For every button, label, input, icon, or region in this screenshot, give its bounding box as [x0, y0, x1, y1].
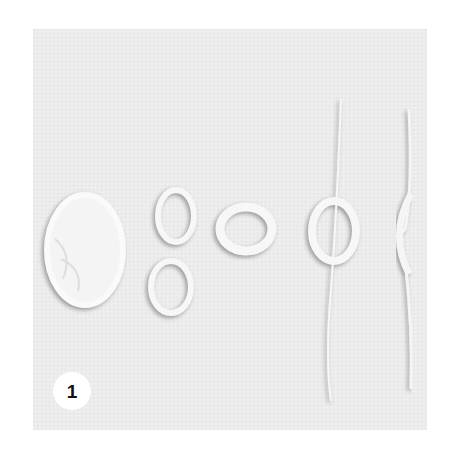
fabric-photo: 1 — [33, 29, 427, 430]
embossed-threads-illustration — [33, 29, 427, 430]
figure-number-badge: 1 — [53, 372, 91, 410]
figure-number: 1 — [67, 382, 78, 401]
oval-shape — [47, 195, 123, 305]
